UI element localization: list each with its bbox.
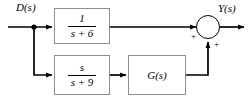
output-label: Y(s) bbox=[218, 2, 236, 14]
sign-left: + bbox=[191, 31, 196, 41]
wire-layer bbox=[0, 0, 251, 101]
block-diagram: 1 s + 6 s s + 9 G(s) + + D(s) Y(s) bbox=[0, 0, 251, 101]
input-label: D(s) bbox=[16, 1, 36, 13]
block-gain[interactable]: G(s) bbox=[128, 55, 186, 95]
block-bottom-numerator: s bbox=[77, 62, 87, 73]
block-top-numerator: 1 bbox=[76, 13, 88, 24]
branch-node bbox=[31, 24, 36, 29]
block-gain-label: G(s) bbox=[147, 69, 167, 81]
wire-branch-to-bottom-block bbox=[34, 27, 52, 75]
block-bottom[interactable]: s s + 9 bbox=[54, 55, 110, 95]
block-top[interactable]: 1 s + 6 bbox=[54, 8, 110, 44]
block-bottom-denominator: s + 9 bbox=[68, 77, 97, 88]
block-bottom-expression: s s + 9 bbox=[68, 62, 97, 87]
block-top-expression: 1 s + 6 bbox=[68, 13, 97, 38]
block-top-denominator: s + 6 bbox=[68, 28, 97, 39]
wire-gain-to-sum bbox=[186, 42, 208, 75]
summing-junction[interactable] bbox=[196, 15, 220, 39]
sign-bottom: + bbox=[214, 39, 219, 49]
